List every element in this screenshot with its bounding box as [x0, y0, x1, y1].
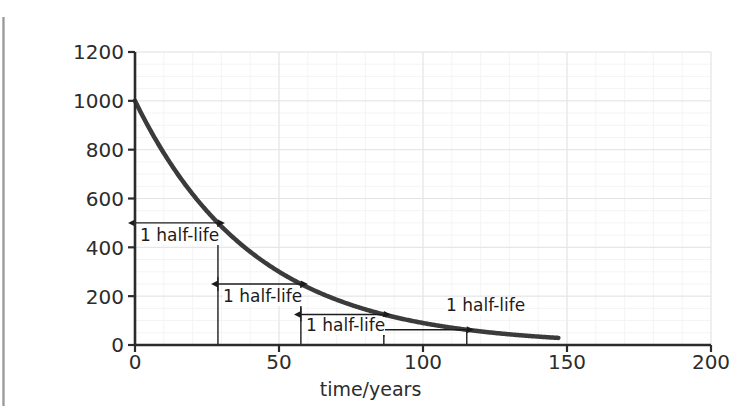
chart-screenshot: 1200 1000 800 600 400 200 0 0 50 100 150…	[0, 0, 741, 420]
y-tick-label-600: 600	[58, 189, 124, 209]
y-tick-label-0: 0	[58, 335, 124, 355]
y-tick-label-1000: 1000	[58, 91, 124, 111]
y-tick-label-400: 400	[58, 238, 124, 258]
plot-area	[135, 52, 711, 345]
axis-lines	[135, 52, 711, 345]
x-tick-label-150: 150	[548, 352, 586, 372]
y-tick-label-200: 200	[58, 287, 124, 307]
y-tick-label-1200: 1200	[58, 42, 124, 62]
page-edge-artifact	[2, 17, 5, 406]
half-life-label-1: 1 half-life	[140, 227, 219, 245]
x-tick-label-100: 100	[404, 352, 442, 372]
x-tick-label-50: 50	[266, 352, 291, 372]
half-life-label-2: 1 half-life	[223, 288, 302, 306]
x-tick-label-0: 0	[129, 352, 142, 372]
y-tick-label-800: 800	[58, 140, 124, 160]
half-life-label-4: 1 half-life	[446, 297, 525, 315]
x-axis-title: time/years	[0, 378, 741, 400]
half-life-label-3: 1 half-life	[306, 317, 385, 335]
x-tick-label-200: 200	[692, 352, 730, 372]
